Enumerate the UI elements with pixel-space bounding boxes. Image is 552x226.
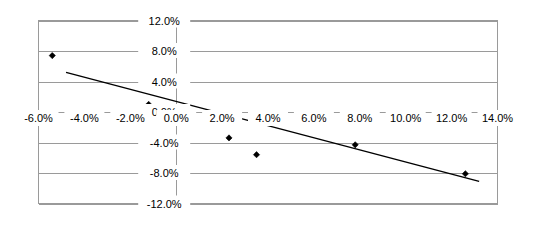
y-axis-tick-label: -12.0% — [147, 198, 182, 210]
scatter-chart: 12.0%8.0%4.0%0.0%-4.0%-8.0%-12.0% -6.0%-… — [0, 0, 552, 226]
trendline-segment — [66, 72, 479, 181]
x-axis-tick-label: 12.0% — [436, 112, 467, 124]
y-axis-tick-label: 4.0% — [152, 76, 177, 88]
x-axis-tick-label: -4.0% — [70, 112, 99, 124]
x-axis-tick-label: 6.0% — [301, 112, 326, 124]
x-axis-tick-label: 4.0% — [255, 112, 280, 124]
x-axis-tick-label: 8.0% — [347, 112, 372, 124]
trendline — [66, 72, 479, 181]
x-axis-tick-label: 10.0% — [390, 112, 421, 124]
data-point-marker — [226, 135, 232, 141]
x-axis-tick-label: -6.0% — [24, 112, 53, 124]
data-point-marker — [352, 142, 358, 148]
y-axis-tick-label: -4.0% — [150, 137, 179, 149]
y-axis-tick-label: -8.0% — [150, 167, 179, 179]
x-axis-tick-label: 2.0% — [210, 112, 235, 124]
chart-canvas: 12.0%8.0%4.0%0.0%-4.0%-8.0%-12.0% -6.0%-… — [0, 0, 552, 226]
data-point-marker — [462, 171, 468, 177]
x-axis-tick-labels: -6.0%-4.0%-2.0%0.0%2.0%4.0%6.0%8.0%10.0%… — [19, 110, 518, 126]
y-axis-tick-label: 8.0% — [152, 45, 177, 57]
x-axis-tick-label: 14.0% — [482, 112, 513, 124]
data-point-marker — [253, 152, 259, 158]
y-axis-tick-label: 12.0% — [149, 15, 180, 27]
x-axis-tick-label: -2.0% — [116, 112, 145, 124]
x-axis-tick-label: 0.0% — [164, 112, 189, 124]
data-point-marker — [49, 52, 55, 58]
